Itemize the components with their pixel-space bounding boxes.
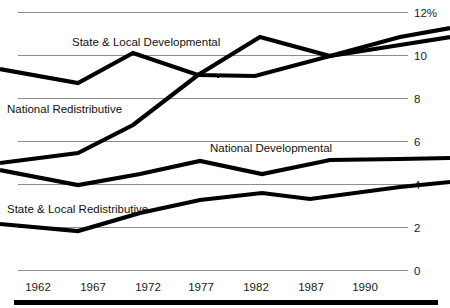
series-group	[0, 28, 450, 231]
chart-canvas: 12% 10 8 6 4 2 0 State & Local Developme…	[0, 0, 450, 308]
x-tick-label-1977: 1977	[188, 281, 214, 293]
y-tick-label-8: 8	[414, 93, 420, 105]
y-tick-label-2: 2	[414, 222, 420, 234]
series-line-national-developmental	[0, 158, 450, 185]
series-label-national-developmental: National Developmental	[210, 142, 332, 154]
series-label-state-local-redistributive: State & Local Redistributive	[7, 203, 148, 215]
y-axis-tick-labels: 12% 10 8 6 4 2 0	[414, 7, 437, 277]
x-tick-label-1967: 1967	[80, 281, 106, 293]
y-tick-label-0: 0	[414, 265, 420, 277]
x-tick-label-1982: 1982	[243, 281, 269, 293]
x-axis-tick-labels: 1962 1967 1972 1977 1982 1987 1990	[25, 281, 378, 293]
y-tick-label-12: 12%	[414, 7, 437, 19]
line-chart-figure: 12% 10 8 6 4 2 0 State & Local Developme…	[0, 0, 450, 308]
series-inline-labels: State & Local Developmental National Red…	[7, 36, 332, 215]
series-label-national-redistributive: National Redistributive	[7, 103, 122, 115]
series-label-state-local-developmental: State & Local Developmental	[72, 36, 220, 48]
bottom-rule	[14, 300, 438, 305]
y-tick-label-10: 10	[414, 50, 427, 62]
scan-artifact-mark	[217, 74, 219, 78]
x-tick-label-1972: 1972	[135, 281, 161, 293]
x-tick-label-1990: 1990	[352, 281, 378, 293]
x-tick-label-1987: 1987	[298, 281, 324, 293]
x-tick-label-1962: 1962	[25, 281, 51, 293]
y-tick-label-6: 6	[414, 136, 420, 148]
